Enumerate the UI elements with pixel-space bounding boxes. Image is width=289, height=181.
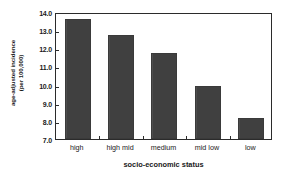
y-axis-tick-label: 12.0 [28, 46, 52, 53]
x-axis-title: socio-economic status [55, 160, 272, 169]
y-axis-tick-label: 13.0 [28, 28, 52, 35]
bar-slot [143, 14, 186, 139]
y-axis-tick-label: 10.0 [28, 82, 52, 89]
bar-slot [56, 14, 99, 139]
x-axis-tick-label: low [245, 143, 256, 152]
y-axis-tick-label: 9.0 [28, 100, 52, 107]
y-axis-title: age-adjusted incidence (per 100,000) [6, 0, 28, 145]
bar-slot [230, 14, 273, 139]
y-axis-title-line-2: (per 100,000) [17, 39, 25, 105]
y-axis-tick-label: 7.0 [28, 137, 52, 144]
bar-slot [186, 14, 229, 139]
y-axis-tick-label: 14.0 [28, 10, 52, 17]
bar [195, 86, 221, 139]
x-axis-tick-label: medium [151, 143, 177, 152]
plot-area [55, 13, 272, 140]
x-axis-tick-label: high [70, 143, 84, 152]
y-axis-tick-label: 8.0 [28, 118, 52, 125]
bar-slot [99, 14, 142, 139]
bar [238, 118, 264, 139]
y-axis-title-line-1: age-adjusted incidence [9, 39, 16, 105]
y-axis-title-text: age-adjusted incidence (per 100,000) [9, 39, 25, 105]
bar-chart-figure: age-adjusted incidence (per 100,000) 14.… [0, 0, 289, 181]
x-axis-tick-label: high mid [107, 143, 134, 152]
bar [108, 35, 134, 139]
x-axis-tick-labels: highhigh midmediummid lowlow [55, 143, 272, 155]
bar [65, 19, 91, 139]
bar-series [56, 14, 271, 139]
bar [151, 53, 177, 139]
x-axis-tick-label: mid low [195, 143, 219, 152]
y-axis-tick-label: 11.0 [28, 64, 52, 71]
y-axis-tick-labels: 14.013.012.011.010.09.08.07.0 [28, 0, 52, 150]
